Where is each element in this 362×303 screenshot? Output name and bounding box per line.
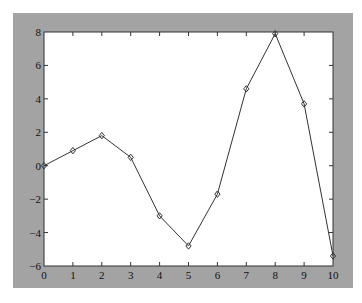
y-tick-label: −6 xyxy=(29,260,41,272)
y-tick-label: 8 xyxy=(36,26,42,38)
x-axis-tick-labels: 012345678910 xyxy=(41,269,339,281)
x-tick-label: 4 xyxy=(157,269,163,281)
x-tick-label: 6 xyxy=(215,269,221,281)
x-tick-label: 3 xyxy=(128,269,134,281)
y-tick-label: −2 xyxy=(29,193,41,205)
x-tick-label: 1 xyxy=(70,269,76,281)
y-tick-label: 6 xyxy=(36,59,42,71)
x-tick-label: 10 xyxy=(328,269,340,281)
x-tick-label: 5 xyxy=(186,269,192,281)
y-axis-tick-labels: −6−4−202468 xyxy=(29,26,41,272)
y-tick-label: −4 xyxy=(29,227,41,239)
y-tick-label: 0 xyxy=(36,160,42,172)
x-tick-label: 9 xyxy=(301,269,307,281)
x-tick-label: 7 xyxy=(244,269,250,281)
plot-area xyxy=(44,32,333,266)
x-tick-label: 8 xyxy=(272,269,278,281)
x-tick-label: 2 xyxy=(99,269,105,281)
line-chart: 012345678910 −6−4−202468 xyxy=(0,0,362,303)
x-tick-label: 0 xyxy=(41,269,47,281)
y-tick-label: 2 xyxy=(36,126,42,138)
y-tick-label: 4 xyxy=(36,93,42,105)
